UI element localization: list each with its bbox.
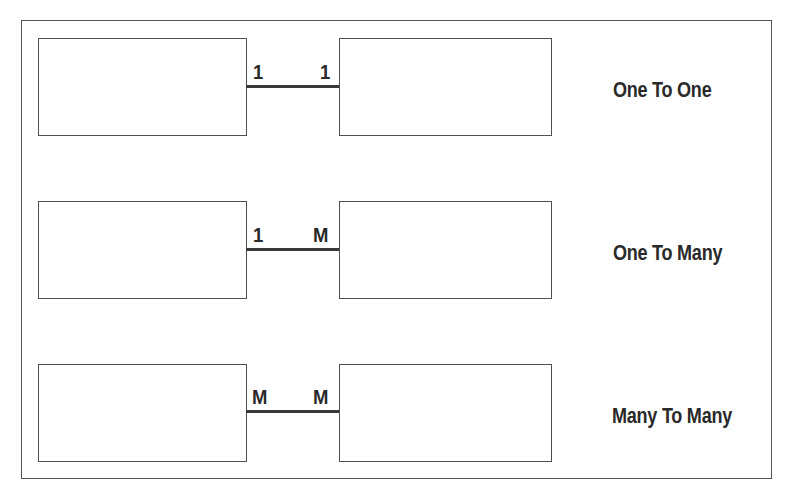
right-cardinality-label: 1 [320, 61, 330, 82]
left-cardinality-label: M [252, 386, 267, 407]
right-cardinality-label: M [313, 386, 328, 407]
left-cardinality-label: 1 [253, 61, 263, 82]
relationship-type-label: One To Many [613, 242, 722, 264]
relationship-line [246, 410, 340, 413]
relationship-type-label: Many To Many [612, 405, 732, 427]
left-cardinality-label: 1 [253, 224, 263, 245]
right-entity-box [339, 38, 552, 136]
right-entity-box [339, 201, 552, 299]
relationship-line [246, 248, 340, 251]
left-entity-box [38, 38, 247, 136]
left-entity-box [38, 201, 247, 299]
right-cardinality-label: M [313, 224, 328, 245]
relationship-line [246, 85, 340, 88]
left-entity-box [38, 364, 247, 462]
relationship-type-label: One To One [613, 79, 711, 101]
right-entity-box [339, 364, 552, 462]
